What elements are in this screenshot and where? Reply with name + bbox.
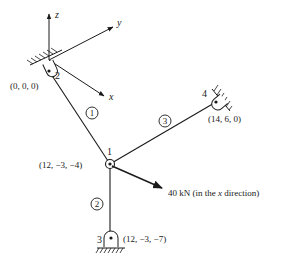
node-4-support bbox=[209, 85, 232, 112]
element-3-bar bbox=[110, 102, 216, 164]
node-4-coords: (14, 6, 0) bbox=[208, 114, 241, 124]
node-1-coords: (12, −3, −4) bbox=[39, 160, 82, 170]
load-arrow bbox=[112, 166, 162, 188]
load-label: 40 kN (in the x direction) bbox=[168, 188, 259, 198]
truss-members bbox=[49, 71, 216, 236]
element-labels: 1 2 3 bbox=[86, 107, 171, 210]
node-2-label: 2 bbox=[55, 70, 60, 81]
z-axis-label: z bbox=[54, 9, 59, 20]
load-label-suffix: direction) bbox=[222, 188, 259, 198]
load-label-prefix: 40 kN (in the bbox=[168, 188, 218, 198]
element-1-bar bbox=[49, 71, 110, 164]
truss-diagram: z y x 1 2 3 bbox=[0, 0, 286, 268]
svg-text:2: 2 bbox=[95, 199, 100, 209]
node-2-coords: (0, 0, 0) bbox=[10, 81, 39, 91]
y-axis bbox=[49, 27, 113, 60]
element-1-label: 1 bbox=[86, 107, 98, 119]
svg-text:1: 1 bbox=[90, 108, 95, 118]
node-1-label: 1 bbox=[107, 146, 112, 157]
node-3-label: 3 bbox=[97, 234, 102, 245]
svg-text:3: 3 bbox=[163, 116, 168, 126]
y-axis-label: y bbox=[116, 17, 122, 28]
element-3-label: 3 bbox=[159, 115, 171, 127]
node-3-coords: (12, −3, −7) bbox=[123, 234, 166, 244]
x-axis-label: x bbox=[108, 91, 114, 102]
node-4-label: 4 bbox=[202, 88, 207, 99]
element-2-label: 2 bbox=[91, 198, 103, 210]
